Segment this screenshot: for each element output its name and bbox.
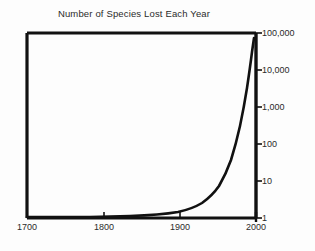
- x-tick-label-1800: 1800: [94, 222, 114, 232]
- x-tick-label-1900: 1900: [170, 222, 190, 232]
- axis-frame: [27, 33, 256, 218]
- x-tick-label-1700: 1700: [17, 222, 37, 232]
- chart-figure: Number of Species Lost Each Year: [0, 0, 315, 251]
- y-tick-label-10000: 10,000: [262, 65, 290, 75]
- y-tick-label-10: 10: [262, 176, 272, 186]
- y-tick-label-1000: 1,000: [262, 102, 285, 112]
- x-tick-label-2000: 2000: [246, 222, 266, 232]
- y-tick-label-100: 100: [262, 139, 277, 149]
- data-series-line: [27, 38, 254, 217]
- y-tick-label-100000: 100,000: [262, 28, 295, 38]
